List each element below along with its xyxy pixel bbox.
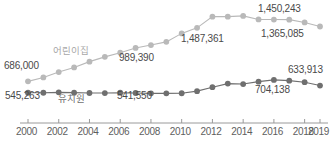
data-point — [194, 88, 200, 94]
x-axis-tick-label-2002: 2002 — [47, 126, 68, 137]
data-point — [87, 59, 93, 65]
value-label-kindergarten-2005: 541,550 — [117, 90, 152, 101]
data-point — [194, 25, 200, 31]
data-point — [286, 78, 292, 84]
data-point — [163, 39, 169, 45]
data-point — [317, 24, 323, 30]
data-point — [133, 45, 139, 51]
x-axis-tick-label-2008: 2008 — [139, 126, 160, 137]
value-label-daycare-2012: 1,487,361 — [181, 33, 224, 44]
x-axis-tick-label-2016: 2016 — [262, 126, 283, 137]
data-point — [210, 14, 216, 20]
data-point — [225, 81, 231, 87]
data-point — [40, 90, 46, 96]
data-point — [271, 17, 277, 23]
x-axis-tick-label-2019: 2019 — [308, 126, 329, 137]
data-point — [102, 90, 108, 96]
series-label-kindergarten: 유치원 — [58, 91, 85, 105]
x-axis-tick-label-2010: 2010 — [170, 126, 191, 137]
data-point — [163, 90, 169, 96]
x-axis-tick-label-2000: 2000 — [16, 126, 37, 137]
value-label-daycare-2000: 686,000 — [4, 60, 39, 71]
data-point — [71, 65, 77, 71]
x-axis-tick-label-2012: 2012 — [200, 126, 221, 137]
value-label-kindergarten-2000: 545,263 — [5, 90, 40, 101]
data-point — [102, 54, 108, 60]
data-point — [240, 13, 246, 19]
data-point — [25, 78, 31, 84]
data-point — [179, 90, 185, 96]
value-label-kindergarten-2016: 704,138 — [255, 84, 290, 95]
x-axis-tick-label-2004: 2004 — [77, 126, 98, 137]
data-point — [225, 14, 231, 20]
data-point — [256, 17, 262, 23]
data-point — [148, 42, 154, 48]
data-point — [302, 79, 308, 85]
data-point — [210, 84, 216, 90]
data-point — [317, 83, 323, 89]
x-axis-tick-label-2014: 2014 — [231, 126, 252, 137]
x-axis — [20, 119, 328, 123]
series-label-daycare: 어린이집 — [53, 43, 89, 57]
data-point — [56, 69, 62, 75]
data-point — [286, 17, 292, 23]
value-label-kindergarten-2019: 633,913 — [288, 64, 323, 75]
value-label-daycare-2019: 1,365,085 — [261, 28, 304, 39]
data-point — [302, 20, 308, 26]
data-point — [240, 81, 246, 87]
value-label-daycare-2005: 989,390 — [119, 52, 154, 63]
data-point — [87, 90, 93, 96]
line-chart: 686,000 989,390 1,487,361 1,450,243 1,36… — [0, 0, 334, 155]
value-label-daycare-2017: 1,450,243 — [258, 3, 301, 14]
data-point — [40, 75, 46, 81]
x-axis-tick-label-2006: 2006 — [108, 126, 129, 137]
data-point — [271, 77, 277, 83]
